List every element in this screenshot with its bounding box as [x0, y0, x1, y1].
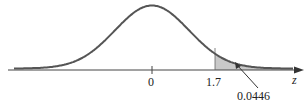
tick-label-zero: 0	[148, 75, 154, 89]
shaded-area-value: 0.0446	[237, 89, 270, 103]
tick-label-1-7: 1.7	[206, 75, 221, 89]
axis-label-z: z	[291, 73, 297, 87]
normal-curve	[14, 6, 293, 69]
normal-curve-diagram: 0 1.7 z 0.0446	[0, 0, 308, 109]
